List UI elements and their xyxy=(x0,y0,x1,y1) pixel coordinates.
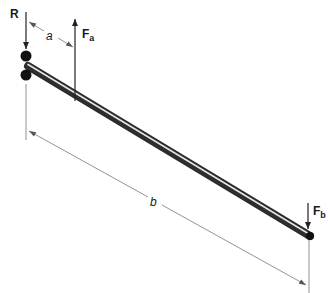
dimension-a-label: a xyxy=(46,29,53,43)
beam-diagram: b a R Fa Fb xyxy=(0,0,330,293)
support-roller-top xyxy=(21,51,32,62)
force-a-label: Fa xyxy=(82,27,95,43)
support-roller-bottom xyxy=(21,70,32,81)
dimension-b-label: b xyxy=(150,195,157,209)
reaction-label: R xyxy=(10,7,19,21)
rod xyxy=(28,65,310,237)
rod-end-cap xyxy=(306,232,314,240)
force-b-label: Fb xyxy=(313,204,326,220)
